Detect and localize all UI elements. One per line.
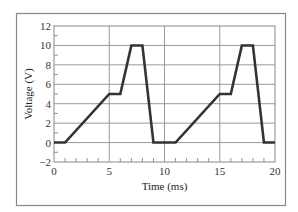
x-tick-label: 20 bbox=[270, 165, 282, 177]
x-tick-label: 10 bbox=[159, 165, 171, 177]
x-tick-label: 15 bbox=[214, 165, 226, 177]
outer-frame bbox=[17, 14, 286, 206]
y-tick-label: 8 bbox=[46, 59, 52, 71]
chart: −2024681012 05101520 Time (ms) Voltage (… bbox=[0, 0, 298, 212]
y-tick-label: 4 bbox=[46, 98, 52, 110]
y-tick-labels: −2024681012 bbox=[39, 20, 51, 168]
x-axis-label: Time (ms) bbox=[142, 180, 188, 193]
x-tick-label: 0 bbox=[51, 165, 57, 177]
y-tick-label: 12 bbox=[40, 20, 51, 32]
x-tick-label: 5 bbox=[107, 165, 113, 177]
y-tick-label: 2 bbox=[46, 117, 52, 129]
y-axis-label: Voltage (V) bbox=[22, 68, 35, 120]
y-tick-label: 6 bbox=[46, 78, 52, 90]
y-tick-label: 10 bbox=[40, 39, 52, 51]
x-tick-labels: 05101520 bbox=[51, 165, 281, 177]
y-tick-label: 0 bbox=[46, 137, 52, 149]
y-tick-label: −2 bbox=[39, 156, 51, 168]
